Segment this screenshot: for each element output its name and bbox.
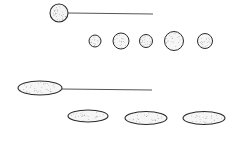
stipple-dot	[205, 122, 206, 123]
stipple-dot	[209, 42, 210, 43]
stipple-dot	[133, 119, 134, 120]
stipple-dot	[78, 116, 79, 117]
stipple-dot	[150, 43, 151, 44]
stipple-dot	[97, 116, 98, 117]
stipple-dot	[211, 117, 212, 118]
stipple-dot	[196, 121, 197, 122]
stipple-dot	[38, 91, 39, 92]
stipple-dot	[143, 45, 144, 46]
stipple-dot	[144, 37, 145, 38]
stipple-dot	[90, 42, 91, 43]
stipple-dot	[149, 44, 150, 45]
stipple-dot	[168, 41, 169, 42]
stipple-dot	[209, 39, 210, 40]
stipple-dot	[123, 39, 124, 40]
stipple-dot	[161, 117, 162, 118]
stipple-dot	[115, 42, 116, 43]
stipple-dot	[47, 83, 48, 84]
stipple-dot	[76, 114, 77, 115]
stipple-dot	[138, 119, 139, 120]
stipple-dot	[205, 123, 206, 124]
stipple-dot	[36, 90, 37, 91]
stipple-dot	[153, 120, 154, 121]
stipple-dot	[115, 39, 116, 40]
stipple-dot	[178, 37, 179, 38]
stipple-dot	[50, 91, 51, 92]
stipple-dot	[97, 111, 98, 112]
flagellated-coccus	[50, 4, 68, 22]
stipple-dot	[55, 13, 56, 14]
stipple-dot	[56, 13, 57, 14]
stipple-dot	[166, 42, 167, 43]
stipple-dot	[54, 11, 55, 12]
stipple-dot	[59, 6, 60, 7]
stipple-dot	[202, 44, 203, 45]
stipple-dot	[197, 116, 198, 117]
stipple-dot	[82, 112, 83, 113]
stipple-dot	[147, 43, 148, 44]
stipple-dot	[81, 116, 82, 117]
stipple-dot	[166, 38, 167, 39]
stipple-dot	[211, 115, 212, 116]
stipple-dot	[205, 46, 206, 47]
stipple-dot	[42, 92, 43, 93]
stipple-dot	[92, 39, 93, 40]
stipple-dot	[201, 41, 202, 42]
organism-illustration	[0, 0, 240, 141]
stipple-dot	[199, 116, 200, 117]
stipple-dot	[57, 9, 58, 10]
stipple-dot	[100, 116, 101, 117]
stipple-dot	[216, 115, 217, 116]
stipple-dot	[98, 41, 99, 42]
stipple-dot	[57, 19, 58, 20]
stipple-dot	[38, 84, 39, 85]
flagellated-bacillus	[18, 81, 62, 95]
stipple-dot	[122, 38, 123, 39]
stipple-dot	[146, 116, 147, 117]
stipple-dot	[62, 16, 63, 17]
stipple-dot	[208, 38, 209, 39]
stipple-dot	[147, 115, 148, 116]
stipple-dot	[121, 42, 122, 43]
stipple-dot	[201, 38, 202, 39]
stipple-dot	[59, 20, 60, 21]
stipple-dot	[202, 42, 203, 43]
stipple-dot	[211, 118, 212, 119]
bacillus-cell	[125, 112, 167, 125]
stipple-dot	[95, 39, 96, 40]
stipple-dot	[150, 41, 151, 42]
stipple-dot	[121, 44, 122, 45]
stipple-dot	[66, 10, 67, 11]
stipple-dot	[147, 41, 148, 42]
stipple-dot	[148, 113, 149, 114]
coccus-cell	[140, 35, 153, 48]
stipple-dot	[204, 41, 205, 42]
stipple-dot	[95, 118, 96, 119]
stipple-dot	[57, 10, 58, 11]
stipple-dot	[94, 43, 95, 44]
stipple-dot	[46, 89, 47, 90]
stipple-dot	[174, 34, 175, 35]
stipple-dot	[27, 92, 28, 93]
stipple-dot	[206, 118, 207, 119]
stipple-dot	[199, 123, 200, 124]
stipple-dot	[117, 35, 118, 36]
stipple-dot	[179, 36, 180, 37]
stipple-dot	[45, 83, 46, 84]
flagellum-line	[62, 89, 152, 90]
stipple-dot	[158, 118, 159, 119]
stipple-dot	[82, 116, 83, 117]
stipple-dot	[54, 87, 55, 88]
stipple-dot	[103, 114, 104, 115]
stipple-dot	[88, 119, 89, 120]
stipple-dot	[121, 38, 122, 39]
stipple-dot	[137, 118, 138, 119]
stipple-dot	[96, 116, 97, 117]
stipple-dot	[80, 115, 81, 116]
stipple-dot	[203, 46, 204, 47]
stipple-dot	[173, 42, 174, 43]
stipple-dot	[191, 116, 192, 117]
stipple-dot	[61, 15, 62, 16]
stipple-dot	[167, 41, 168, 42]
stipple-dot	[62, 19, 63, 20]
